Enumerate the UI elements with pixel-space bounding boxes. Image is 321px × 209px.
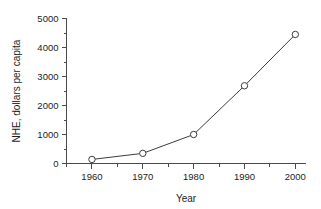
x-axis-tick-label: 1980: [183, 171, 204, 182]
y-axis-title: NHE, dollars per capita: [11, 39, 22, 142]
x-axis-tick-label: 1990: [234, 171, 255, 182]
line-chart: 0100020003000400050001960197019801990200…: [0, 0, 321, 209]
y-axis-tick-label: 3000: [37, 71, 58, 82]
x-axis-tick-label: 1970: [132, 171, 153, 182]
x-axis-tick-label: 2000: [285, 171, 306, 182]
y-axis-tick-label: 5000: [37, 13, 58, 24]
data-point-marker: [190, 131, 196, 137]
y-axis-tick-label: 4000: [37, 42, 58, 53]
x-axis-title: Year: [176, 193, 197, 204]
data-point-marker: [89, 156, 95, 162]
data-point-marker: [140, 150, 146, 156]
data-series-line: [92, 34, 295, 159]
y-axis-tick-label: 2000: [37, 100, 58, 111]
y-axis-tick-label: 0: [53, 158, 58, 169]
chart-canvas: 0100020003000400050001960197019801990200…: [0, 0, 321, 209]
data-point-marker: [241, 83, 247, 89]
data-point-marker: [292, 31, 298, 37]
x-axis-tick-label: 1960: [81, 171, 102, 182]
y-axis-tick-label: 1000: [37, 129, 58, 140]
